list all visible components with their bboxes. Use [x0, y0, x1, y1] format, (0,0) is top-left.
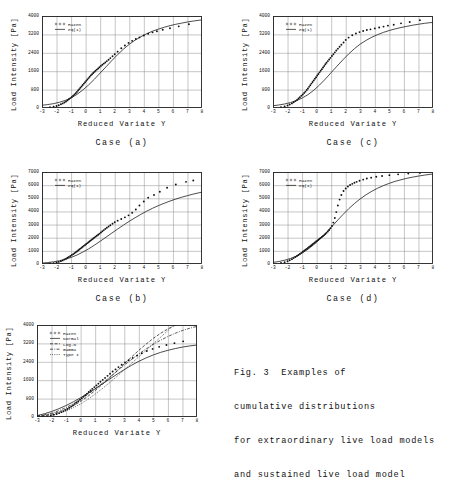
x-tick-label: 7 [417, 266, 420, 271]
legend-label: eq(1) [68, 183, 81, 188]
y-tick-label: 3200 [23, 341, 34, 346]
y-tick-labels-case-b: 01000200030004000500060007000 [10, 172, 39, 264]
x-tick-label: -3 [39, 110, 45, 115]
y-tick-label: 1600 [28, 69, 39, 74]
y-tick-label: 4000 [23, 323, 34, 328]
x-tick-labels-case-d: -3-2-1012345678 [273, 266, 433, 274]
plot-area-case-d[interactable]: Hazeneq(1) [273, 172, 433, 264]
x-tick-label: 2 [113, 266, 116, 271]
chart-svg-case-d: Hazeneq(1) [273, 172, 433, 264]
x-tick-label: -3 [34, 419, 40, 424]
x-tick-label: 0 [315, 110, 318, 115]
chart-panel-case-c: Load Intensity [Pa] Hazeneq(1) 080016002… [232, 4, 465, 159]
x-tick-label: -2 [54, 110, 60, 115]
x-tick-label: -3 [270, 110, 276, 115]
legend-label: Gamma [63, 347, 77, 352]
x-tick-label: 1 [330, 110, 333, 115]
x-tick-label: 1 [94, 419, 97, 424]
series-markers-hazen [49, 23, 190, 108]
y-tick-label: 4000 [28, 14, 39, 19]
plot-area-case-a[interactable]: Hazeneq(1) [42, 16, 202, 108]
legend-case-b: Hazeneq(1) [55, 178, 82, 188]
x-tick-label: 3 [128, 110, 131, 115]
x-tick-label: 8 [432, 266, 435, 271]
series-line-eq-1- [273, 174, 433, 262]
x-tick-label: 6 [172, 266, 175, 271]
y-tick-label: 4000 [28, 209, 39, 214]
legend-case-c: Hazeneq(1) [286, 22, 313, 32]
chart-panel-case-a: Load Intensity [Pa] Hazeneq(1) 080016002… [0, 4, 232, 159]
figure-caption-line-1: Fig. 3 Examples of [234, 368, 435, 379]
x-tick-label: 4 [142, 266, 145, 271]
y-tick-label: 1600 [23, 378, 34, 383]
y-tick-label: 2400 [259, 51, 270, 56]
x-tick-label: 5 [388, 266, 391, 271]
y-tick-label: 6000 [259, 183, 270, 188]
legend-label: Hazen [68, 22, 82, 27]
legend-case-a: Hazeneq(1) [55, 22, 82, 32]
legend-label: Hazen [63, 331, 77, 336]
plot-area-case-c[interactable]: Hazeneq(1) [273, 16, 433, 108]
x-tick-label: 4 [142, 110, 145, 115]
chart-svg-case-b: Hazeneq(1) [42, 172, 202, 264]
x-tick-label: 2 [113, 110, 116, 115]
x-tick-label: 4 [373, 110, 376, 115]
series-line-gamma [37, 326, 197, 416]
x-tick-label: 3 [128, 266, 131, 271]
x-tick-label: 3 [359, 110, 362, 115]
y-tick-label: 800 [26, 396, 34, 401]
x-tick-label: 6 [403, 110, 406, 115]
y-tick-label: 1000 [259, 249, 270, 254]
legend-label: Hazen [299, 22, 313, 27]
legend-label: Hazen [299, 178, 313, 183]
plot-frame [43, 17, 202, 108]
case-caption-c: Case (c) [273, 138, 433, 148]
x-tick-label: -1 [68, 266, 74, 271]
x-axis-label-case-d: Reduced Variate Y [273, 276, 433, 284]
y-tick-label: 2000 [259, 235, 270, 240]
plot-area-sustained[interactable]: HazenNormalLog-NGammaType I [37, 325, 197, 417]
x-axis-label-case-b: Reduced Variate Y [42, 276, 202, 284]
x-tick-label: 4 [373, 266, 376, 271]
x-tick-label: 0 [84, 110, 87, 115]
x-tick-label: 2 [344, 110, 347, 115]
chart-svg-case-a: Hazeneq(1) [42, 16, 202, 108]
legend-label: eq(1) [299, 183, 312, 188]
legend-label: eq(1) [68, 27, 81, 32]
y-tick-label: 800 [262, 87, 270, 92]
case-caption-d: Case (d) [273, 294, 433, 304]
y-tick-label: 6000 [28, 183, 39, 188]
case-caption-b: Case (b) [42, 294, 202, 304]
x-tick-label: 1 [99, 110, 102, 115]
x-tick-label: 4 [137, 419, 140, 424]
x-tick-label: 2 [108, 419, 111, 424]
legend-label: Normal [63, 336, 79, 341]
plot-area-case-b[interactable]: Hazeneq(1) [42, 172, 202, 264]
x-tick-label: -2 [285, 266, 291, 271]
y-tick-label: 3200 [259, 32, 270, 37]
legend-label: Type I [63, 352, 79, 357]
figure-caption-line-3: for extraordinary live load models [234, 436, 435, 447]
series-markers-hazen [280, 19, 421, 108]
y-tick-label: 1000 [28, 249, 39, 254]
x-tick-labels-sustained: -3-2-1012345678 [37, 419, 197, 427]
x-tick-label: 6 [167, 419, 170, 424]
y-tick-label: 1600 [259, 69, 270, 74]
y-tick-label: 4000 [259, 209, 270, 214]
y-tick-label: 3000 [28, 222, 39, 227]
plot-frame [274, 173, 433, 264]
series-line-eq-1- [42, 20, 202, 105]
x-axis-label-case-c: Reduced Variate Y [273, 120, 433, 128]
chart-svg-case-c: Hazeneq(1) [273, 16, 433, 108]
x-axis-label-case-a: Reduced Variate Y [42, 120, 202, 128]
x-tick-label: 3 [359, 266, 362, 271]
y-tick-label: 2400 [23, 360, 34, 365]
x-tick-label: -3 [39, 266, 45, 271]
x-tick-label: -1 [299, 110, 305, 115]
x-axis-label-sustained: Reduced Variate Y [37, 429, 197, 437]
chart-panel-case-b: Load Intensity [Pa] Hazeneq(1) 010002000… [0, 160, 232, 315]
x-tick-label: 1 [99, 266, 102, 271]
x-tick-label: -1 [299, 266, 305, 271]
y-tick-label: 3000 [259, 222, 270, 227]
